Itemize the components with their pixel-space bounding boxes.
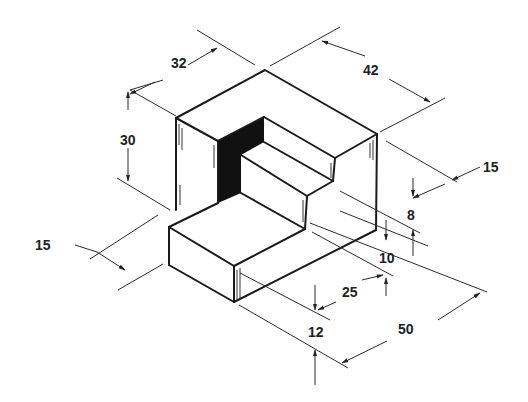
isometric-drawing: 32 42 30 15 8 10 15 25 12 50: [0, 0, 528, 402]
dimension-label-50: 50: [398, 322, 414, 336]
dimension-label-10: 10: [379, 251, 395, 265]
dimension-label-25: 25: [342, 285, 358, 299]
block-outline: [169, 70, 377, 302]
dimension-label-30: 30: [120, 133, 136, 147]
dimension-label-32: 32: [171, 56, 187, 70]
drawing-svg: [0, 0, 528, 402]
dimension-label-15-left: 15: [35, 238, 51, 252]
dimension-label-12: 12: [308, 325, 324, 339]
dimension-label-15-right: 15: [483, 160, 499, 174]
dimension-lines: [75, 27, 487, 385]
dimension-label-8: 8: [407, 208, 415, 222]
dimension-label-42: 42: [363, 63, 379, 77]
